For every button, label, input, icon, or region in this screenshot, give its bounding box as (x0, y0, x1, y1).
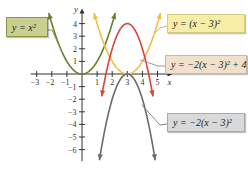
y-axis-arrow-icon (80, 9, 85, 14)
y-tick-label: 4 (73, 20, 77, 29)
y-axis-label: y (73, 4, 78, 14)
x-axis-label: x (167, 77, 172, 87)
y-tick-label: −1 (68, 83, 77, 92)
arrowhead-icon (149, 90, 154, 96)
x-tick-label: 1 (95, 78, 99, 87)
arrowhead-icon (100, 90, 105, 96)
y-tick-label: −5 (68, 133, 77, 142)
y-tick-label: −4 (68, 120, 77, 129)
x-tick-label: −2 (46, 78, 55, 87)
arrowhead-icon (98, 154, 103, 160)
label-shifted-parabola: y = (x − 3)² (167, 14, 245, 33)
label-reflected-raised-parabola: y = −2(x − 3)² + 4 (165, 55, 247, 74)
y-tick-label: 3 (73, 32, 77, 41)
y-tick-label: 1 (73, 57, 77, 66)
curve-shifted (94, 13, 160, 74)
x-tick-label: 3 (125, 78, 129, 87)
y-tick-label: 2 (73, 45, 77, 54)
y-tick-label: −2 (68, 95, 77, 104)
y-tick-label: −6 (68, 146, 77, 155)
arrowhead-icon (152, 154, 157, 160)
y-tick-label: −3 (68, 108, 77, 117)
label-y-equals-x-squared: y = x² (6, 17, 48, 37)
label-reflected-parabola: y = −2(x − 3)² (167, 113, 245, 132)
x-tick-label: 2 (110, 78, 114, 87)
pointer-reflected-raised (140, 60, 165, 66)
x-tick-label: 5 (156, 78, 160, 87)
x-tick-label: 4 (140, 78, 144, 87)
x-tick-label: −3 (31, 78, 40, 87)
